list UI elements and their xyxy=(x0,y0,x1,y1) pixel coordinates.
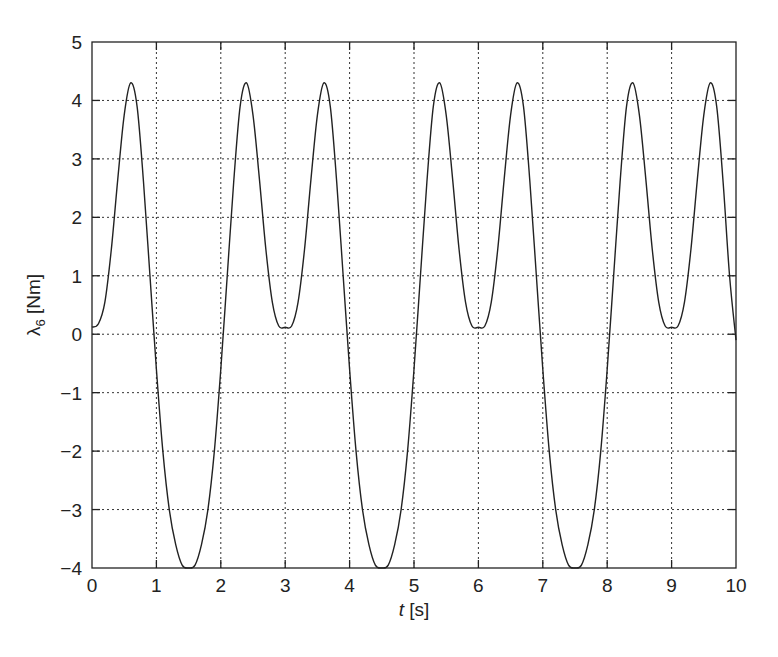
y-tick-label: 5 xyxy=(71,32,82,53)
x-axis-label: t [s] xyxy=(399,599,430,620)
series-line-lambda6 xyxy=(92,83,736,568)
x-tick-label: 6 xyxy=(473,575,484,596)
line-chart: 012345678910 −4−3−2−1012345 t [s] λ6 [Nm… xyxy=(0,0,778,657)
plot-frame xyxy=(92,42,736,568)
x-tick-labels: 012345678910 xyxy=(87,575,747,596)
x-tick-label: 4 xyxy=(344,575,355,596)
y-tick-labels: −4−3−2−1012345 xyxy=(60,32,82,579)
grid-lines xyxy=(92,42,736,568)
y-axis-unit: [Nm] xyxy=(23,274,44,319)
y-axis-variable: λ xyxy=(23,326,44,336)
x-tick-label: 10 xyxy=(725,575,746,596)
y-tick-label: −4 xyxy=(60,558,82,579)
y-tick-label: −3 xyxy=(60,500,82,521)
y-tick-label: 0 xyxy=(71,324,82,345)
x-tick-label: 5 xyxy=(409,575,420,596)
y-axis-label: λ6 [Nm] xyxy=(23,274,48,336)
y-tick-label: 1 xyxy=(71,266,82,287)
y-tick-label: 3 xyxy=(71,149,82,170)
y-tick-label: −1 xyxy=(60,383,82,404)
x-tick-label: 9 xyxy=(666,575,677,596)
x-tick-label: 2 xyxy=(216,575,227,596)
y-tick-label: −2 xyxy=(60,441,82,462)
y-tick-label: 4 xyxy=(71,90,82,111)
x-tick-label: 8 xyxy=(602,575,613,596)
y-tick-label: 2 xyxy=(71,207,82,228)
x-tick-label: 7 xyxy=(538,575,549,596)
x-axis-unit: [s] xyxy=(404,599,429,620)
x-tick-label: 0 xyxy=(87,575,98,596)
axis-ticks xyxy=(92,42,736,568)
y-axis-subscript: 6 xyxy=(33,319,48,326)
x-tick-label: 3 xyxy=(280,575,291,596)
x-tick-label: 1 xyxy=(151,575,162,596)
